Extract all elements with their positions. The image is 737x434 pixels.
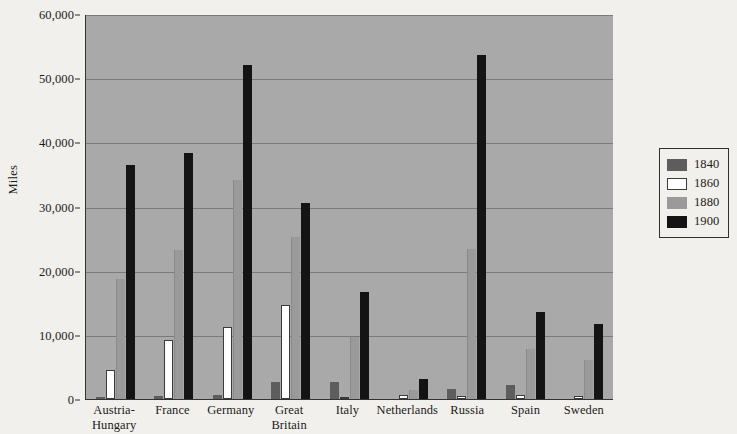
bar-chart-figure: Miles 010,00020,00030,00040,00050,00060,… (0, 0, 737, 434)
bar (126, 165, 135, 399)
bar (360, 292, 369, 399)
bar (154, 396, 163, 399)
legend-swatch (667, 178, 687, 190)
legend-swatch (667, 197, 687, 209)
y-tick-label: 40,000 (39, 137, 74, 150)
bar (574, 396, 583, 399)
legend-item: 1900 (667, 213, 722, 230)
y-tick-mark (75, 207, 80, 208)
legend: 1840186018801900 (659, 148, 729, 238)
bar (223, 327, 232, 399)
legend-swatch (667, 159, 687, 171)
y-tick-label: 50,000 (39, 73, 74, 86)
y-tick-mark (75, 271, 80, 272)
bar (536, 312, 545, 399)
bar-group (203, 15, 262, 399)
bar (506, 385, 515, 399)
bar (340, 397, 349, 399)
x-tick-label: Spain (496, 403, 554, 432)
y-tick-mark (75, 15, 80, 16)
bar (243, 65, 252, 399)
y-tick-label: 60,000 (39, 9, 74, 22)
bar (301, 203, 310, 399)
bar (106, 370, 115, 399)
legend-label: 1860 (694, 176, 719, 191)
bar (164, 340, 173, 399)
bar (399, 395, 408, 399)
bar (594, 324, 603, 399)
y-tick-mark (75, 79, 80, 80)
bar (233, 180, 242, 399)
bar (447, 389, 456, 399)
bar-group (437, 15, 496, 399)
legend-label: 1900 (694, 214, 719, 229)
y-tick-label: 10,000 (39, 330, 74, 343)
bar (409, 390, 418, 399)
legend-label: 1880 (694, 195, 719, 210)
legend-item: 1880 (667, 194, 722, 211)
bar (184, 153, 193, 399)
x-tick-label: Netherlands (377, 403, 439, 432)
bar (457, 396, 466, 399)
x-tick-label: Russia (438, 403, 496, 432)
bar (116, 279, 125, 399)
y-axis-tick-labels: 010,00020,00030,00040,00050,00060,000 (18, 0, 80, 434)
bar (516, 395, 525, 399)
bar-group (379, 15, 438, 399)
y-tick-label: 30,000 (39, 201, 74, 214)
y-tick-mark (75, 400, 80, 401)
bar (330, 382, 339, 399)
y-tick-label: 20,000 (39, 265, 74, 278)
x-tick-label: GreatBritain (260, 403, 318, 432)
bar-group (262, 15, 321, 399)
bar (174, 250, 183, 400)
legend-item: 1840 (667, 156, 722, 173)
bar (419, 379, 428, 399)
legend-swatch (667, 216, 687, 228)
bar-group (320, 15, 379, 399)
bar-group (555, 15, 614, 399)
bar-group (496, 15, 555, 399)
bar (526, 349, 535, 399)
y-tick-label: 0 (68, 394, 74, 407)
y-tick-mark (75, 143, 80, 144)
bar (477, 55, 486, 399)
bar (213, 395, 222, 399)
legend-item: 1860 (667, 175, 722, 192)
x-tick-label: Italy (318, 403, 376, 432)
bar-group (86, 15, 145, 399)
x-axis-tick-labels: Austria-HungaryFranceGermanyGreatBritain… (85, 403, 613, 432)
bar (281, 305, 290, 399)
bar (271, 382, 280, 399)
x-tick-label: Germany (202, 403, 260, 432)
x-tick-label: Sweden (555, 403, 613, 432)
x-tick-label: Austria-Hungary (85, 403, 143, 432)
x-tick-label: France (143, 403, 201, 432)
plot-area (85, 15, 613, 400)
bar-group (145, 15, 204, 399)
y-tick-mark (75, 335, 80, 336)
bar (350, 337, 359, 399)
bar-groups (86, 15, 613, 399)
bar (291, 237, 300, 399)
bar (584, 360, 593, 399)
bar (96, 397, 105, 399)
legend-label: 1840 (694, 157, 719, 172)
bar (467, 249, 476, 399)
